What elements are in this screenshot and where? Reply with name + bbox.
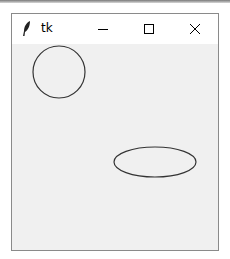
feather-icon [23,21,31,36]
tk-canvas[interactable] [12,44,218,250]
maximize-icon [143,23,155,35]
window-title: tk [41,21,53,35]
close-icon [189,23,201,35]
desktop-edge [0,0,230,3]
minimize-button[interactable] [80,14,126,44]
ellipse-shape [114,147,196,177]
shape-layer [12,44,218,250]
circle-shape [33,46,85,98]
close-button[interactable] [172,14,218,44]
tk-window: tk [11,13,219,251]
minimize-icon [97,23,109,35]
maximize-button[interactable] [126,14,172,44]
title-bar[interactable]: tk [12,14,218,44]
